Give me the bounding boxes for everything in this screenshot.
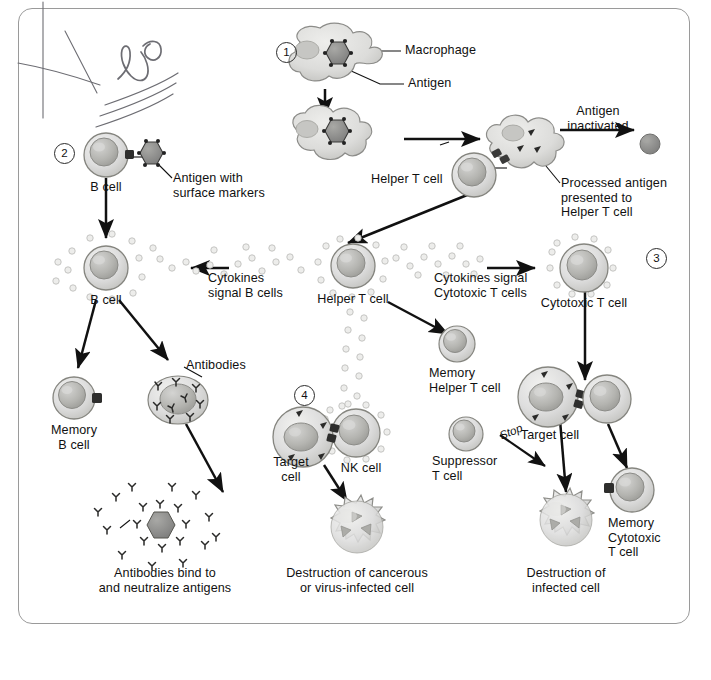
label-b-cell-top: B cell	[90, 180, 121, 195]
macrophage-cell-1	[289, 23, 382, 81]
label-processed-antigen: Processed antigen presented to Helper T …	[561, 176, 667, 220]
step-number-2: 2	[54, 143, 75, 164]
label-memory-helper-t-cell: Memory Helper T cell	[429, 366, 501, 395]
step-number-4: 4	[294, 385, 315, 406]
label-target-cell-left: Target cell	[273, 455, 309, 484]
label-antigen: Antigen	[408, 76, 451, 91]
label-antibodies-bind: Antibodies bind to and neutralize antige…	[99, 566, 232, 595]
label-antibodies: Antibodies	[186, 358, 246, 373]
macrophage-cell-3-presenting	[487, 115, 565, 168]
nk-cell	[332, 409, 380, 457]
memory-helper-t-cell	[439, 326, 475, 362]
label-helper-t-cell-center: Helper T cell	[317, 292, 389, 307]
b-cell-top	[84, 133, 166, 177]
destroyed-cancerous-cell	[331, 495, 385, 553]
label-cytotoxic-t-cell: Cytotoxic T cell	[541, 296, 628, 311]
label-nk-cell: NK cell	[341, 461, 382, 476]
label-cytokines-signal-ctl: Cytokines signal Cytotoxic T cells	[434, 271, 527, 300]
label-memory-cytotoxic-t-cell: Memory Cytotoxic T cell	[608, 516, 661, 560]
destroyed-infected-cell	[540, 488, 594, 546]
label-helper-t-cell-top: Helper T cell	[371, 172, 443, 187]
antibody-antigen-cluster	[95, 484, 220, 571]
label-destruction-infected: Destruction of infected cell	[526, 566, 605, 595]
label-cytokines-signal-b: Cytokines signal B cells	[208, 271, 283, 300]
cytotoxic-t-cell-attacking	[583, 375, 631, 423]
label-antigen-surface-markers: Antigen with surface markers	[173, 171, 265, 200]
label-antigen-inactivated: Antigen inactivated	[567, 104, 628, 133]
helper-t-cell-center	[331, 244, 375, 288]
macrophage-cell-2	[293, 105, 372, 159]
target-cell-right	[518, 367, 586, 427]
plasma-cell-antibodies	[148, 376, 208, 424]
memory-cytotoxic-t-cell	[604, 468, 654, 512]
b-cell-activated	[84, 246, 128, 290]
antigen-inactivated	[640, 134, 660, 154]
suppressor-t-cell	[449, 417, 483, 451]
label-suppressor-t-cell: Suppressor T cell	[432, 454, 497, 483]
step-number-1: 1	[276, 42, 297, 63]
helper-t-cell-top	[452, 153, 496, 197]
label-memory-b-cell: Memory B cell	[51, 423, 97, 452]
label-b-cell-activated: B cell	[90, 293, 121, 308]
cytotoxic-t-cell	[560, 244, 608, 292]
handwritten-annotation	[18, 2, 178, 127]
label-target-cell-right: Target cell	[521, 428, 580, 443]
label-destruction-cancerous: Destruction of cancerous or virus-infect…	[286, 566, 428, 595]
step-number-3: 3	[646, 248, 667, 269]
label-macrophage: Macrophage	[405, 43, 476, 58]
memory-b-cell	[53, 377, 102, 419]
diagram-canvas: 1 2 3 4 Macrophage Antigen Antigen inact…	[0, 0, 711, 680]
